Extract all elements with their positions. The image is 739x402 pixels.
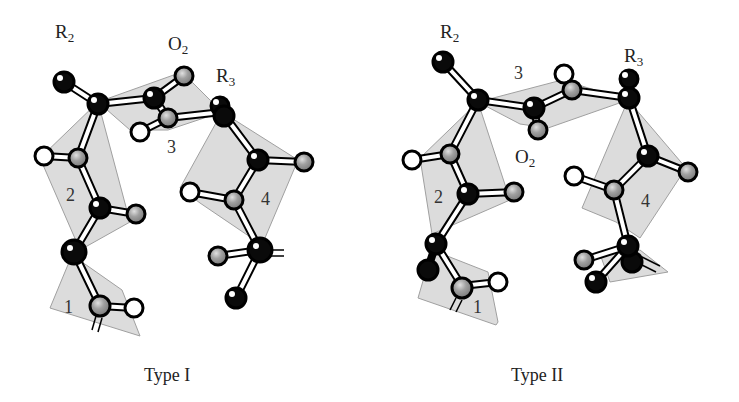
type-i-r3-label: R3	[216, 66, 235, 88]
type-i-residue-3: 3	[167, 138, 176, 156]
type-ii-residue-4: 4	[641, 192, 650, 210]
type-ii-caption: Type II	[511, 366, 563, 384]
type-i-structure	[35, 67, 313, 336]
atom-n-4	[225, 191, 243, 209]
type-i-o2-label: O2	[168, 34, 188, 56]
atom-calpha-2	[88, 94, 108, 114]
atom-n-3	[563, 81, 581, 99]
atom-h-1	[125, 299, 143, 317]
type-ii-r2-label: R2	[440, 22, 459, 44]
atom-n-2	[69, 149, 87, 167]
type-i-residue-2: 2	[66, 186, 75, 204]
type-ii-residue-3: 3	[514, 64, 523, 82]
atom-h-3	[131, 123, 149, 141]
atom-r2	[54, 72, 74, 92]
atom-c-3	[248, 150, 268, 170]
type-ii-o2-label: O2	[515, 147, 535, 169]
atom-r2	[433, 52, 453, 72]
type-ii-residue-1: 1	[473, 298, 482, 316]
atom-o-3	[295, 153, 313, 171]
type-i-residue-1: 1	[64, 298, 73, 316]
atom-c-1	[90, 198, 110, 218]
atom-c-2	[524, 98, 544, 118]
atom-n-1	[452, 278, 472, 298]
beta-turn-figure: R2 O2 R3 1 2 3 4 Type I R2 O2 R3 1 2 3 4…	[0, 0, 739, 402]
atom-c-2	[144, 88, 164, 108]
atom-calpha-3	[214, 106, 234, 126]
atom-o-3	[679, 163, 697, 181]
atom-r4	[226, 288, 246, 308]
type-i-r2-label: R2	[55, 22, 74, 44]
type-ii-structure	[403, 52, 697, 325]
atom-calpha-1	[426, 234, 446, 254]
atom-o2	[529, 121, 547, 139]
type-ii-r3-label: R3	[624, 46, 643, 68]
atom-calpha-2	[468, 90, 488, 110]
atom-c-4	[586, 272, 606, 292]
atom-o-4	[575, 251, 593, 269]
atom-n-1	[90, 296, 110, 316]
atom-r1	[418, 260, 438, 280]
atom-r3	[620, 70, 638, 88]
atom-calpha-3	[619, 88, 639, 108]
atom-c-1	[458, 184, 478, 204]
type-i-caption: Type I	[144, 366, 190, 384]
atom-h-2	[35, 147, 53, 165]
atom-n-4	[605, 181, 623, 199]
atom-o-1	[127, 205, 145, 223]
atom-h-4	[565, 167, 583, 185]
type-i-residue-4: 4	[261, 190, 270, 208]
atom-o-1	[505, 183, 523, 201]
atom-h-1	[489, 273, 507, 291]
atom-calpha-1	[62, 240, 86, 264]
atom-calpha-4	[248, 238, 272, 262]
type-ii-residue-2: 2	[434, 188, 443, 206]
atom-c-3	[638, 146, 658, 166]
atom-n-2	[441, 145, 459, 163]
atom-h-2	[403, 151, 421, 169]
atom-o-4	[209, 247, 227, 265]
atom-calpha-4	[618, 236, 638, 256]
atom-o2	[175, 67, 193, 85]
atom-h-4	[181, 183, 199, 201]
atom-n-3	[159, 109, 177, 127]
